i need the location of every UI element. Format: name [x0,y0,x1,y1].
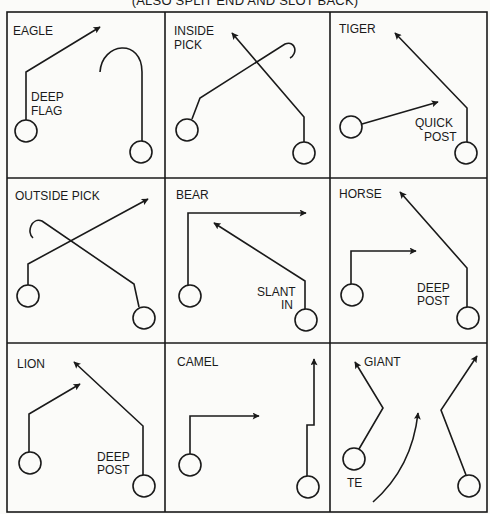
route-arrow [188,213,306,285]
player-circle [179,285,201,307]
play-outside-pick [17,199,155,329]
route-note: IN [281,298,293,312]
player-circle [343,448,365,470]
player-circle [458,475,480,497]
route-note: DEEP [97,450,130,464]
route-note: POST [417,294,450,308]
player-circle [293,142,315,164]
play-name: EAGLE [13,24,53,38]
play-name: GIANT [364,355,401,369]
play-tiger [340,33,477,164]
route-note: TE [347,476,362,490]
route-note: DEEP [31,90,64,104]
player-circle [455,142,477,164]
player-circle [340,116,362,138]
route-arrow [29,384,80,452]
play-name: TIGER [339,22,376,36]
route-arrow [355,362,383,449]
player-circle [179,454,201,476]
play-name: HORSE [339,187,382,201]
route-arrow [28,199,148,285]
play-name: BEAR [176,188,209,202]
route-note: FLAG [31,104,62,118]
player-circle [17,285,39,307]
player-circle [297,476,319,498]
play-name: PICK [174,38,202,52]
route-note: SLANT [257,285,296,299]
route-note: POST [424,130,457,144]
play-bear [179,213,317,331]
route-hook [100,48,142,141]
route-arrow [307,359,314,476]
play-horse [341,192,479,329]
player-circle [19,452,41,474]
play-grid: EAGLE DEEP FLAG INSIDE PICK TIGER QUICK … [0,0,490,514]
player-circle [15,120,37,142]
player-circle [130,141,152,163]
route-note: DEEP [417,281,450,295]
route-note: POST [97,463,130,477]
play-giant [343,356,480,502]
route-note: QUICK [415,116,453,130]
player-circle [457,307,479,329]
play-name: CAMEL [177,355,219,369]
route-arrow [441,356,477,475]
route-arrow [351,251,416,284]
route-arrow [232,33,304,142]
route-arrow [190,416,259,454]
play-lion [19,362,155,497]
player-circle [176,119,198,141]
play-name: INSIDE [174,24,214,38]
route-arrow [373,413,418,502]
route-hook [192,43,295,119]
play-name: LION [17,357,45,371]
player-circle [295,309,317,331]
player-circle [133,475,155,497]
play-inside-pick [176,33,315,164]
grid-border [7,12,487,512]
play-name: OUTSIDE PICK [15,189,100,203]
play-camel [179,359,319,498]
player-circle [341,284,363,306]
player-circle [133,307,155,329]
